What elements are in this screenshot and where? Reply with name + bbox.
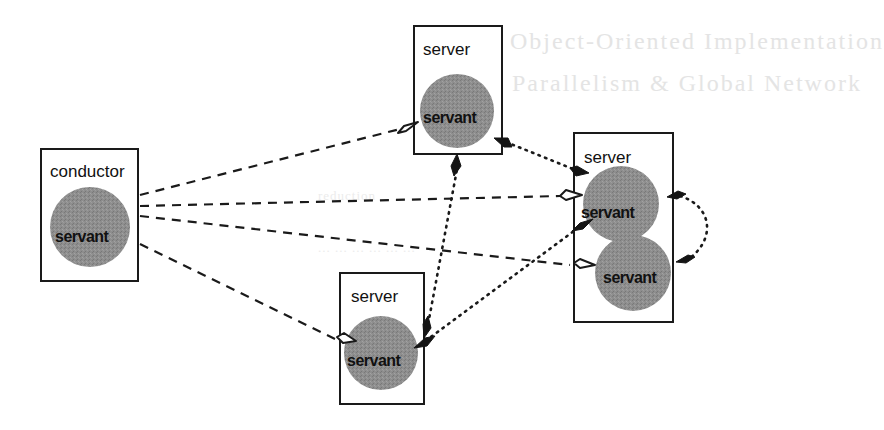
conductor-servant[interactable]: servant — [50, 187, 130, 267]
edge-conductor-to-server-right-servant-2 — [140, 216, 570, 265]
filled-arrowhead-icon — [676, 255, 695, 263]
server-right-label: server — [584, 148, 632, 167]
edge-server-top-to-server-bottom — [427, 164, 458, 330]
servant-label: servant — [347, 352, 402, 369]
edge-servant-1-to-servant-2-loop — [680, 196, 707, 258]
servant-circle — [50, 187, 130, 267]
conductor-label: conductor — [50, 162, 125, 181]
servant-label: servant — [423, 109, 478, 126]
server-right-node[interactable]: server servant servant — [574, 133, 673, 322]
server-bottom-servant[interactable]: servant — [344, 316, 418, 390]
edge-conductor-to-server-top — [140, 128, 404, 195]
server-top-node[interactable]: server servant — [414, 26, 502, 154]
conductor-node[interactable]: conductor servant — [41, 149, 138, 281]
servant-label: servant — [603, 269, 658, 286]
server-right-servant-2[interactable]: servant — [595, 235, 671, 311]
server-top-servant[interactable]: servant — [420, 74, 494, 148]
filled-arrowhead-icon — [451, 154, 461, 176]
edge-conductor-to-server-right-servant-1 — [140, 196, 560, 206]
server-bottom-label: server — [351, 287, 399, 306]
servant-label: servant — [581, 204, 636, 221]
edge-server-top-to-server-right — [506, 142, 578, 171]
servant-label: servant — [55, 228, 110, 245]
edge-conductor-to-server-bottom — [140, 244, 335, 339]
server-top-label: server — [423, 40, 471, 59]
edge-server-bottom-to-server-right — [420, 228, 578, 345]
